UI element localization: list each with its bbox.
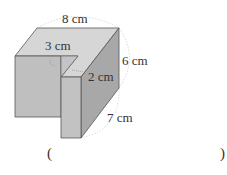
- figure-canvas: 8 cm 3 cm 6 cm 2 cm 7 cm ( ): [0, 0, 227, 175]
- answer-open-paren: (: [47, 146, 52, 161]
- label-7cm: 7 cm: [107, 111, 133, 124]
- label-8cm: 8 cm: [62, 12, 88, 25]
- label-6cm: 6 cm: [122, 54, 148, 67]
- front-left-face: [15, 56, 61, 117]
- label-2cm: 2 cm: [88, 70, 114, 83]
- answer-close-paren: ): [220, 146, 225, 161]
- answer-blank[interactable]: [56, 146, 216, 162]
- label-3cm: 3 cm: [45, 39, 71, 52]
- front-pillar-face: [61, 77, 81, 138]
